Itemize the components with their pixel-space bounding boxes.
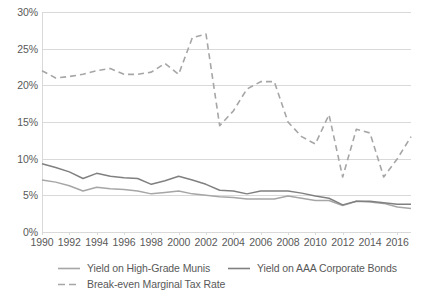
x-axis-tick-mark xyxy=(315,232,316,235)
legend-row: Yield on High-Grade MunisYield on AAA Co… xyxy=(0,260,421,276)
y-axis-tick-label: 20% xyxy=(2,80,38,90)
legend-item-label: Yield on AAA Corporate Bonds xyxy=(257,262,397,275)
series-line xyxy=(42,180,411,209)
series-line xyxy=(42,34,411,177)
legend-item-label: Yield on High-Grade Munis xyxy=(87,262,210,275)
x-axis-tick-mark xyxy=(124,232,125,235)
x-axis-tick-mark xyxy=(370,232,371,235)
x-axis-tick-mark xyxy=(397,232,398,235)
x-axis-tick-label: 2016 xyxy=(386,236,409,248)
x-axis-tick-label: 2008 xyxy=(277,236,300,248)
x-axis-tick-mark xyxy=(261,232,262,235)
y-axis: 0%5%10%15%20%25%30% xyxy=(0,12,38,232)
plot-area xyxy=(42,12,411,232)
x-axis-tick-label: 1996 xyxy=(113,236,136,248)
series-line xyxy=(42,164,411,205)
x-axis-tick-label: 2006 xyxy=(249,236,272,248)
x-axis-tick-label: 2002 xyxy=(195,236,218,248)
x-axis-tick-mark xyxy=(97,232,98,235)
legend-row: Break-even Marginal Tax Rate xyxy=(0,276,421,292)
series-lines xyxy=(42,12,411,232)
y-axis-tick-label: 5% xyxy=(2,190,38,200)
x-axis-tick-label: 2000 xyxy=(167,236,190,248)
y-axis-tick-label: 30% xyxy=(2,7,38,17)
x-axis-tick-mark xyxy=(288,232,289,235)
x-axis-tick-mark xyxy=(206,232,207,235)
x-axis-tick-label: 2012 xyxy=(331,236,354,248)
legend-item[interactable]: Yield on AAA Corporate Bonds xyxy=(228,260,397,276)
y-axis-tick-label: 25% xyxy=(2,44,38,54)
legend-line-icon xyxy=(58,263,80,274)
legend-item[interactable]: Break-even Marginal Tax Rate xyxy=(58,276,225,292)
x-axis-tick-label: 2010 xyxy=(304,236,327,248)
x-axis-tick-mark xyxy=(69,232,70,235)
legend-item[interactable]: Yield on High-Grade Munis xyxy=(58,260,210,276)
x-axis-tick-mark xyxy=(179,232,180,235)
x-axis-tick-label: 2004 xyxy=(222,236,245,248)
y-axis-tick-label: 10% xyxy=(2,154,38,164)
x-axis-tick-mark xyxy=(233,232,234,235)
chart-legend: Yield on High-Grade MunisYield on AAA Co… xyxy=(0,260,421,292)
legend-line-icon xyxy=(228,263,250,274)
x-axis-tick-label: 2014 xyxy=(359,236,382,248)
line-chart: 0%5%10%15%20%25%30% 19901992199419961998… xyxy=(0,0,421,300)
x-axis-tick-label: 1998 xyxy=(140,236,163,248)
y-axis-tick-label: 15% xyxy=(2,117,38,127)
x-axis-tick-label: 1994 xyxy=(85,236,108,248)
x-axis-tick-label: 1990 xyxy=(31,236,54,248)
legend-line-icon xyxy=(58,279,80,290)
x-axis-tick-mark xyxy=(151,232,152,235)
x-axis: 1990199219941996199820002002200420062008… xyxy=(42,236,411,252)
x-axis-tick-mark xyxy=(42,232,43,235)
x-axis-tick-label: 1992 xyxy=(58,236,81,248)
x-axis-tick-mark xyxy=(343,232,344,235)
legend-item-label: Break-even Marginal Tax Rate xyxy=(87,278,225,291)
